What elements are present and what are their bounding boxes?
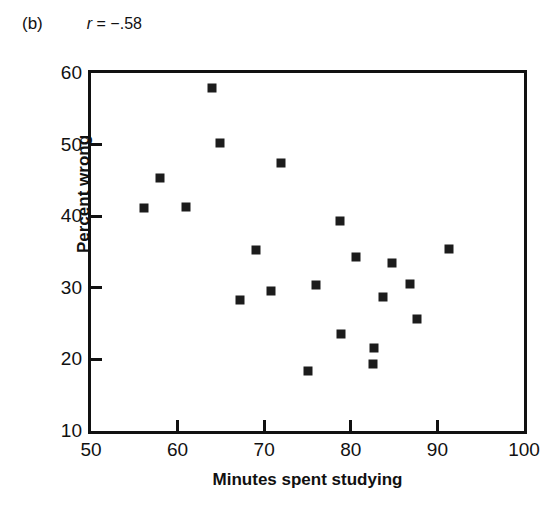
data-point [267,287,276,296]
y-axis-tick-label: 20 [61,348,82,370]
data-point [156,174,165,183]
data-point [369,359,378,368]
data-point [139,203,148,212]
data-point [304,366,313,375]
x-axis-tick-label: 50 [80,439,101,461]
data-point [235,295,244,304]
correlation-annotation: r = −.58 [87,15,142,33]
data-points-layer: 1020304050605060708090100 [91,73,524,431]
data-point [378,293,387,302]
data-point [337,329,346,338]
data-point [312,280,321,289]
x-axis-tick-label: 70 [254,439,275,461]
x-axis-tick [263,420,266,431]
x-axis-tick-label: 90 [427,439,448,461]
data-point [444,245,453,254]
data-point [351,253,360,262]
x-axis-tick [349,420,352,431]
data-point [370,343,379,352]
y-axis-tick-label: 10 [61,420,82,442]
data-point [412,314,421,323]
data-point [405,280,414,289]
plot-area: 1020304050605060708090100 [88,70,527,434]
x-axis-tick [436,420,439,431]
data-point [336,217,345,226]
panel-label: (b) [22,14,43,34]
x-axis-tick [176,420,179,431]
x-axis-tick-label: 80 [340,439,361,461]
data-point [208,84,217,93]
figure-annotations: (b) r = −.58 [22,14,142,34]
y-axis-tick-label: 60 [61,62,82,84]
y-axis-tick [91,286,102,289]
x-axis-title: Minutes spent studying [88,470,527,490]
x-axis-tick-label: 60 [167,439,188,461]
data-point [276,158,285,167]
data-point [251,245,260,254]
data-point [216,139,225,148]
data-point [182,202,191,211]
scatter-plot-figure: (b) r = −.58 1020304050605060708090100 M… [0,0,560,511]
x-axis-tick-label: 100 [508,439,540,461]
correlation-value: = −.58 [92,15,142,32]
data-point [387,259,396,268]
y-axis-tick [91,358,102,361]
y-axis-title: Percent wrong [74,104,94,284]
